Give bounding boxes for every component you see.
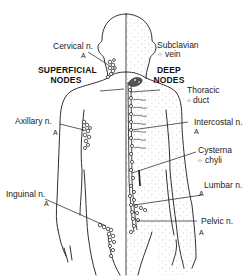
label-inguinal-nodes: Inguinal n. [6, 190, 45, 199]
cisterna-marker-icon: ⁘ [197, 157, 203, 164]
cervical-node-cluster [106, 59, 116, 79]
label-subclavian-vein-2: vein [165, 50, 181, 59]
label-pelvic-nodes: Pelvic n. [201, 217, 233, 226]
intercostal-marker-icon: A [194, 128, 199, 135]
label-cisterna-chyli: Cysterna [198, 146, 232, 155]
deep-nodes-heading: DEEP NODES [153, 66, 185, 85]
label-thoracic-duct: Thoracic [187, 86, 220, 95]
label-cervical-nodes: Cervical n. [53, 42, 93, 51]
thoracic-marker-icon: ⁘ [186, 97, 192, 104]
subclavian-marker-icon: ⁘ [157, 51, 163, 58]
axillary-marker-icon: A [53, 129, 58, 136]
label-intercostal-nodes: Intercostal n. [194, 118, 243, 127]
deep-heading-line2: NODES [153, 76, 185, 86]
cisterna-chyli [139, 170, 140, 186]
superficial-heading-line2: NODES [38, 76, 94, 86]
cervical-marker-icon: A [81, 52, 86, 59]
lumbar-marker-icon: A [199, 190, 204, 197]
label-axillary-nodes: Axillary n. [15, 117, 52, 126]
inguinal-marker-icon: A [44, 200, 49, 207]
label-thoracic-duct-2: duct [193, 96, 209, 105]
pelvic-marker-icon: A [199, 229, 204, 236]
superficial-nodes-heading: SUPERFICIAL NODES [38, 66, 94, 85]
inguinal-node-cluster [98, 223, 115, 257]
label-lumbar-nodes: Lumbar n. [204, 181, 242, 190]
label-cisterna-chyli-2: chyli [205, 156, 222, 165]
lymph-node-body-diagram [0, 0, 250, 278]
axillary-node-cluster [82, 120, 91, 149]
